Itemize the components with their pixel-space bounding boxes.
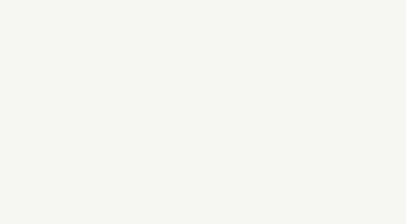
deformation-plot-b: [203, 0, 406, 224]
deformation-figure: [0, 0, 406, 224]
panel-b: [203, 0, 406, 224]
panel-a: [0, 0, 203, 224]
deformation-plot-a: [0, 0, 203, 224]
